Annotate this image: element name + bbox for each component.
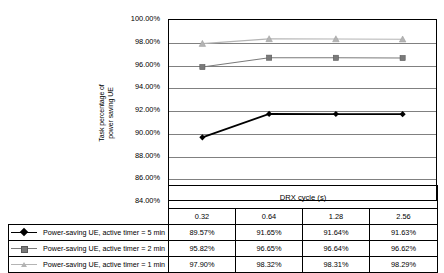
table-row: Power-saving UE, active timer = 1 min 97… — [9, 257, 438, 273]
legend-label-2min: Power-saving UE, active timer = 2 min — [40, 244, 168, 253]
diamond-marker-icon — [21, 229, 27, 235]
diamond-marker-icon — [266, 111, 272, 117]
cell-1min-2: 98.31% — [303, 257, 370, 273]
y-axis-title-line-1: Task percentage of — [97, 48, 106, 178]
diamond-marker-icon — [400, 111, 406, 117]
column-header-1: 0.64 — [236, 209, 303, 225]
cell-5min-3: 91.63% — [370, 225, 438, 241]
y-axis-tick-label: 88.00% — [135, 152, 160, 160]
series-1 — [199, 111, 405, 141]
square-marker-icon — [267, 55, 272, 60]
series-2 — [200, 55, 405, 69]
series-line — [202, 58, 402, 67]
y-axis-tick-label: 90.00% — [135, 129, 160, 137]
legend-label-1min: Power-saving UE, active timer = 1 min — [40, 260, 168, 269]
legend-key-5min — [11, 228, 37, 237]
y-axis-tick-label: 98.00% — [135, 38, 160, 46]
legend-entry-5min: Power-saving UE, active timer = 5 min — [9, 225, 169, 241]
diamond-marker-icon — [333, 111, 339, 117]
y-axis-tick-label: 92.00% — [135, 106, 160, 114]
column-header-2: 1.28 — [303, 209, 370, 225]
triangle-marker-icon — [21, 261, 27, 267]
square-marker-icon — [400, 55, 405, 60]
square-marker-icon — [200, 64, 205, 69]
diamond-marker-icon — [199, 134, 205, 140]
table-row: Power-saving UE, active timer = 5 min 89… — [9, 225, 438, 241]
square-marker-icon — [333, 55, 338, 60]
legend-entry-2min: Power-saving UE, active timer = 2 min — [9, 241, 169, 257]
column-header-0: 0.32 — [169, 209, 236, 225]
legend-key-2min — [11, 244, 37, 253]
y-axis-tick-label: 96.00% — [135, 61, 160, 69]
cell-2min-0: 95.82% — [169, 241, 236, 257]
table-spacer-cell — [9, 209, 169, 225]
table-row: Power-saving UE, active timer = 2 min 95… — [9, 241, 438, 257]
y-axis-tick-label: 100.00% — [131, 15, 160, 23]
series-canvas — [169, 20, 436, 200]
legend-entry-1min: Power-saving UE, active timer = 1 min — [9, 257, 169, 273]
cell-1min-3: 98.29% — [370, 257, 438, 273]
y-axis-tick-label: 94.00% — [135, 83, 160, 91]
legend-key-1min — [11, 260, 37, 269]
legend-label-5min: Power-saving UE, active timer = 5 min — [40, 228, 168, 237]
table-spacer-cell — [9, 186, 169, 209]
cell-1min-0: 97.90% — [169, 257, 236, 273]
table-row-headers: 0.32 0.64 1.28 2.56 — [9, 209, 438, 225]
data-table: DRX cycle (s) 0.32 0.64 1.28 2.56 — [8, 185, 438, 273]
cell-1min-1: 98.32% — [236, 257, 303, 273]
cell-2min-3: 96.62% — [370, 241, 438, 257]
x-axis-title: DRX cycle (s) — [169, 186, 438, 209]
series-line — [202, 114, 402, 137]
cell-2min-1: 96.65% — [236, 241, 303, 257]
column-header-3: 2.56 — [370, 209, 438, 225]
cell-5min-0: 89.57% — [169, 225, 236, 241]
table-row-xaxis-title: DRX cycle (s) — [9, 186, 438, 209]
cell-2min-2: 96.64% — [303, 241, 370, 257]
series-line — [202, 39, 402, 44]
y-axis-tick-label: 86.00% — [135, 174, 160, 182]
cell-5min-2: 91.64% — [303, 225, 370, 241]
square-marker-icon — [21, 245, 28, 253]
series-3 — [199, 36, 406, 47]
cell-5min-1: 91.65% — [236, 225, 303, 241]
plot-area — [168, 19, 437, 201]
